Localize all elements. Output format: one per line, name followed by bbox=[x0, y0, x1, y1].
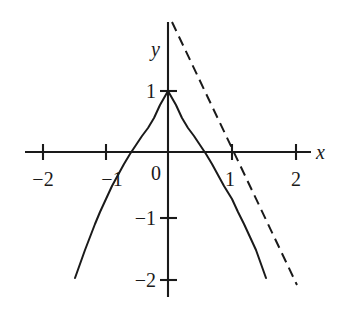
origin-label: 0 bbox=[151, 162, 161, 184]
x-axis-label: x bbox=[315, 141, 325, 163]
y-axis-label: y bbox=[149, 38, 160, 61]
graph-canvas: x y −2 −1 1 2 1 −1 −2 0 bbox=[0, 0, 340, 313]
figure-container: x y −2 −1 1 2 1 −1 −2 0 bbox=[0, 0, 340, 313]
y-tick-label-neg2: −2 bbox=[135, 269, 156, 291]
y-tick-label-pos1: 1 bbox=[146, 80, 156, 102]
y-tick-label-neg1: −1 bbox=[135, 207, 156, 229]
x-tick-label-neg1: −1 bbox=[101, 168, 122, 190]
x-tick-label-pos1: 1 bbox=[225, 168, 235, 190]
x-tick-label-neg2: −2 bbox=[32, 168, 53, 190]
x-tick-label-pos2: 2 bbox=[291, 168, 301, 190]
tangent-line-dashed bbox=[172, 22, 297, 285]
axes-group bbox=[25, 22, 311, 297]
